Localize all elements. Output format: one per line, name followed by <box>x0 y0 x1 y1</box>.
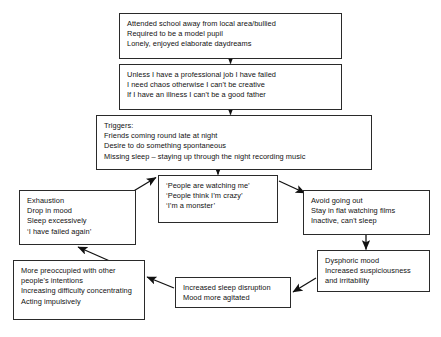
triggers-box[interactable]: Triggers: Friends coming round late at n… <box>96 115 372 170</box>
box-line: Attended school away from local area/bul… <box>127 19 335 29</box>
box-line: Stay in flat watching films <box>311 206 423 216</box>
dysfunctional-assumptions-box[interactable]: Unless I have a professional job I have … <box>119 64 342 110</box>
box-line: Required to be a model pupil <box>127 29 335 39</box>
box-line: Inactive, can't sleep <box>311 216 423 226</box>
box-line: Triggers: <box>104 121 365 131</box>
edge-sleepdisrupt-to-preoccupied <box>147 277 174 288</box>
box-line: Unless I have a professional job I have … <box>127 70 335 80</box>
box-line: Mood more agitated <box>183 293 284 303</box>
box-line: Dysphoric mood <box>325 256 423 266</box>
box-line: Lonely, enjoyed elaborate daydreams <box>127 39 335 49</box>
early-experiences-box[interactable]: Attended school away from local area/bul… <box>119 13 342 59</box>
edge-thoughts-to-avoid <box>279 181 305 193</box>
box-line: Desire to do something spontaneous <box>104 141 365 151</box>
box-line: and irritability <box>325 276 423 286</box>
dysphoric-mood-box[interactable]: Dysphoric mood Increased suspiciousness … <box>317 250 430 292</box>
preoccupation-box[interactable]: More preoccupied with other people's int… <box>13 260 145 320</box>
box-line: Sleep excessively <box>27 216 129 226</box>
box-line: Friends coming round late at night <box>104 131 365 141</box>
box-line: Increasing difficulty concentrating <box>21 286 138 296</box>
box-line: Increased sleep disruption <box>183 283 284 293</box>
box-line: ‘People are watching me’ <box>166 181 271 191</box>
box-line: Increased suspiciousness <box>325 266 423 276</box>
flowchart-diagram: Attended school away from local area/bul… <box>0 0 441 337</box>
box-line: ‘People think I’m crazy’ <box>166 191 271 201</box>
edge-dysphoric-to-sleepdisrupt <box>293 278 316 292</box>
avoidance-behaviour-box[interactable]: Avoid going out Stay in flat watching fi… <box>303 190 430 235</box>
box-line: Drop in mood <box>27 206 129 216</box>
box-line: If I have an illness I can't be a good f… <box>127 90 335 100</box>
sleep-disruption-box[interactable]: Increased sleep disruption Mood more agi… <box>175 277 291 308</box>
box-line: ‘I’m a monster’ <box>166 201 271 211</box>
box-line: Missing sleep – staying up through the n… <box>104 152 365 162</box>
negative-thoughts-box[interactable]: ‘People are watching me’ ‘People think I… <box>158 175 278 223</box>
box-line: Acting impulsively <box>21 297 138 307</box>
box-line: More preoccupied with other <box>21 266 138 276</box>
box-line: I need chaos otherwise I can't be creati… <box>127 80 335 90</box>
exhaustion-box[interactable]: Exhaustion Drop in mood Sleep excessivel… <box>19 190 136 245</box>
box-line: people's intentions <box>21 276 138 286</box>
box-line: Avoid going out <box>311 196 423 206</box>
box-line: Exhaustion <box>27 196 129 206</box>
box-line: ‘I have failed again’ <box>27 227 129 237</box>
